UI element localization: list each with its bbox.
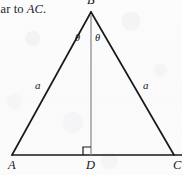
side-length-label-right: a xyxy=(143,80,149,91)
side-bc xyxy=(91,12,174,155)
triangle-diagram xyxy=(0,0,182,175)
vertex-label-c: C xyxy=(173,159,181,172)
vertex-label-b: B xyxy=(87,0,95,7)
angle-label-theta-left: θ xyxy=(75,33,80,44)
side-length-label-left: a xyxy=(35,80,41,91)
vertex-label-d: D xyxy=(86,159,95,172)
vertex-label-a: A xyxy=(8,159,16,172)
right-angle-marker-icon xyxy=(83,147,91,155)
geometry-figure: lar to AC. B A D C a a θ θ xyxy=(0,0,182,175)
angle-label-theta-right: θ xyxy=(95,33,100,44)
